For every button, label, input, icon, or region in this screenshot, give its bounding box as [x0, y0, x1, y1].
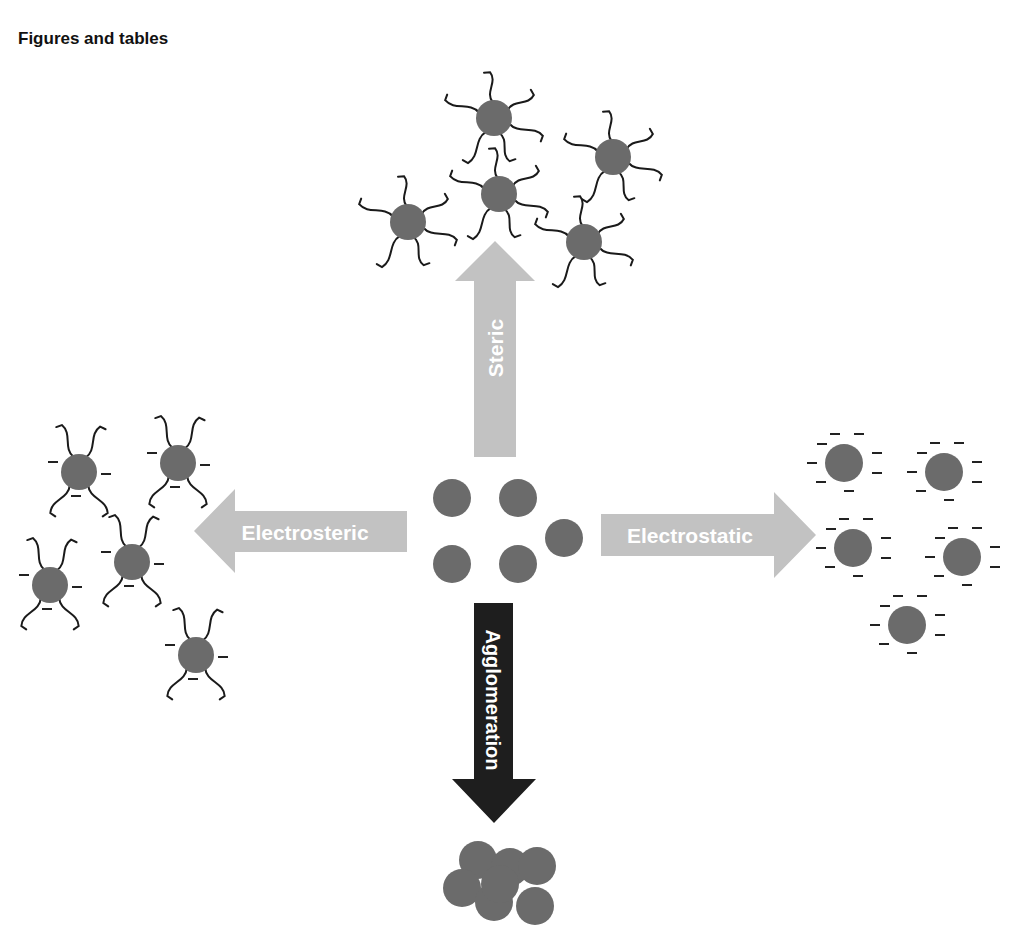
- polymer-tail-icon: [377, 236, 400, 267]
- agglomerated-particle-icon: [518, 847, 556, 885]
- charged-particle-icon: [825, 444, 863, 482]
- polymer-tail-icon: [514, 199, 548, 217]
- polymer-tail-icon: [50, 485, 70, 516]
- agglomeration-arrow: Agglomeration: [452, 603, 536, 823]
- nanoparticle-icon: [545, 519, 583, 557]
- polymer-tail-icon: [508, 90, 534, 110]
- polymer-tail-icon: [139, 517, 159, 548]
- polymer-tail-icon: [628, 162, 662, 180]
- polymer-tail-icon: [463, 132, 486, 163]
- steric-particle-icon: [390, 204, 426, 240]
- electrosteric-particle-icon: [178, 637, 214, 673]
- electrostatic-particles: [807, 434, 1000, 653]
- electrosteric-particle-icon: [32, 567, 68, 603]
- polymer-tail-icon: [205, 668, 225, 699]
- polymer-tail-icon: [489, 148, 498, 178]
- polymer-tail-icon: [422, 194, 448, 214]
- electrosteric-arrow: Electrosteric: [194, 489, 407, 573]
- polymer-tail-icon: [603, 111, 612, 141]
- nanoparticle-icon: [433, 545, 471, 583]
- polymer-tail-icon: [21, 598, 41, 629]
- electrosteric-particle-icon: [114, 544, 150, 580]
- polymer-tail-icon: [187, 476, 207, 507]
- polymer-tail-icon: [56, 425, 73, 457]
- steric-particle-icon: [566, 224, 602, 260]
- polymer-tail-icon: [564, 134, 598, 152]
- stabilization-diagram: Steric Electrosteric Electrostatic Agglo…: [0, 0, 1016, 944]
- polymer-tail-icon: [450, 171, 484, 189]
- nanoparticle-icon: [499, 479, 537, 517]
- polymer-tail-icon: [141, 575, 161, 606]
- polymer-tail-icon: [553, 256, 576, 287]
- charged-particle-icon: [925, 453, 963, 491]
- steric-particle-icon: [481, 176, 517, 212]
- polymer-tail-icon: [509, 123, 543, 141]
- polymer-tail-icon: [359, 199, 393, 217]
- nanoparticle-icon: [433, 479, 471, 517]
- polymer-tail-icon: [589, 257, 605, 285]
- polymer-tail-icon: [86, 427, 106, 458]
- polymer-tail-icon: [109, 515, 126, 547]
- polymer-tail-icon: [423, 227, 457, 245]
- polymer-tail-icon: [88, 485, 108, 516]
- polymer-tail-icon: [535, 219, 569, 237]
- polymer-tail-icon: [504, 209, 520, 237]
- electrosteric-particle-icon: [61, 454, 97, 490]
- electrosteric-label: Electrosteric: [241, 521, 369, 544]
- polymer-tail-icon: [59, 598, 79, 629]
- electrosteric-particle-icon: [160, 445, 196, 481]
- polymer-tail-icon: [203, 610, 223, 641]
- polymer-tail-icon: [27, 538, 44, 570]
- steric-particle-icon: [595, 139, 631, 175]
- polymer-tail-icon: [598, 214, 624, 234]
- polymer-tail-icon: [149, 476, 169, 507]
- electrostatic-arrow: Electrostatic: [601, 492, 816, 578]
- polymer-tail-icon: [57, 540, 77, 571]
- steric-label: Steric: [484, 319, 507, 378]
- agglomerated-particle-icon: [481, 865, 519, 903]
- charged-particle-icon: [834, 529, 872, 567]
- charged-particle-icon: [943, 538, 981, 576]
- steric-arrow: Steric: [455, 241, 535, 457]
- polymer-tail-icon: [173, 608, 190, 640]
- agglomerated-particle-icon: [516, 887, 554, 925]
- polymer-tail-icon: [599, 247, 633, 265]
- dispersed-particles: [433, 479, 583, 583]
- charged-particle-icon: [888, 606, 926, 644]
- electrosteric-particles: [19, 416, 228, 699]
- steric-particle-icon: [476, 100, 512, 136]
- polymer-tail-icon: [167, 668, 187, 699]
- polymer-tail-icon: [582, 171, 605, 202]
- polymer-tail-icon: [513, 166, 539, 186]
- polymer-tail-icon: [468, 208, 491, 239]
- polymer-tail-icon: [398, 176, 407, 206]
- polymer-tail-icon: [445, 95, 479, 113]
- steric-particles: [359, 72, 662, 287]
- polymer-tail-icon: [627, 129, 653, 149]
- polymer-tail-icon: [103, 575, 123, 606]
- polymer-tail-icon: [155, 416, 172, 448]
- nanoparticle-icon: [499, 545, 537, 583]
- polymer-tail-icon: [574, 196, 583, 226]
- polymer-tail-icon: [484, 72, 493, 102]
- polymer-tail-icon: [413, 237, 429, 265]
- electrostatic-label: Electrostatic: [627, 524, 753, 547]
- agglomerated-particles: [443, 841, 556, 925]
- polymer-tail-icon: [618, 172, 634, 200]
- polymer-tail-icon: [499, 133, 515, 161]
- agglomeration-label: Agglomeration: [482, 629, 504, 770]
- polymer-tail-icon: [185, 418, 205, 449]
